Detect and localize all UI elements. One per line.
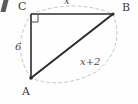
dashed-arc-bottom bbox=[31, 72, 96, 83]
side-hypotenuse bbox=[31, 14, 113, 78]
vertex-dot-a bbox=[29, 76, 33, 80]
vertex-label-c: C bbox=[18, 1, 26, 12]
side-label-leg-horizontal: x bbox=[64, 0, 70, 6]
vertex-label-a: A bbox=[22, 86, 30, 97]
triangle-canvas bbox=[0, 0, 138, 104]
side-label-hypotenuse: x+2 bbox=[80, 57, 100, 67]
side-label-leg-vertical: 6 bbox=[15, 42, 21, 52]
right-angle-marker bbox=[31, 14, 38, 22]
dashed-arc-group bbox=[21, 6, 117, 83]
vertex-label-b: B bbox=[122, 2, 130, 13]
dashed-arc-left bbox=[21, 14, 32, 78]
geometry-figure: C B A 6 x x+2 bbox=[0, 0, 138, 104]
dashed-arc-top bbox=[31, 6, 113, 14]
vertex-dot-b bbox=[111, 12, 114, 15]
